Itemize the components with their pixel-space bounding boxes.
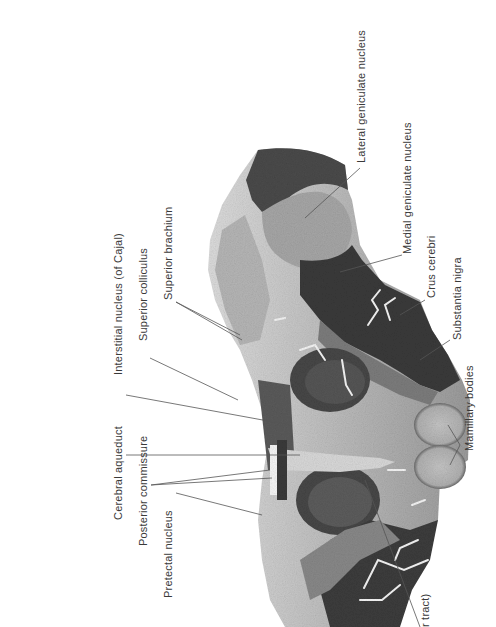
label-truncated-tract: r tract) [419,594,432,627]
label-interstitial-nucleus: Interstitial nucleus (of Cajal) [112,233,125,375]
label-lateral-geniculate-nucleus: Lateral geniculate nucleus [355,30,368,163]
brain-section-figure [0,0,496,627]
label-posterior-commissure: Posterior commissure [137,436,150,546]
label-superior-colliculus: Superior colliculus [137,248,150,341]
label-cerebral-aqueduct: Cerebral aqueduct [112,426,125,520]
mamillary-body-upper [414,403,466,447]
label-crus-cerebri: Crus cerebri [425,236,438,298]
label-mamillary-bodies: Mamillary bodies [463,365,476,451]
label-superior-brachium: Superior brachium [162,207,175,300]
label-pretectal-nucleus: Pretectal nucleus [162,510,175,598]
tissue-section [208,148,470,627]
label-medial-geniculate-nucleus: Medial geniculate nucleus [401,122,414,254]
label-substantia-nigra: Substantia nigra [451,257,464,340]
mamillary-body-lower [414,445,466,489]
